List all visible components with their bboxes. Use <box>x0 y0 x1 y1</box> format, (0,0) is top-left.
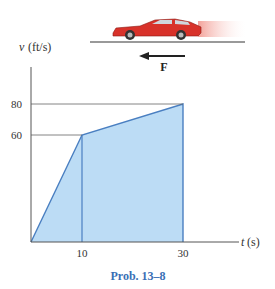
y-axis-var: v <box>19 40 25 54</box>
force-arrow-icon <box>139 52 185 60</box>
diagram-canvas: F v (ft/s) 80 60 10 30 t (s) Prob. 13–8 <box>0 0 275 289</box>
y-axis-unit: (ft/s) <box>28 40 51 54</box>
force-label: F <box>160 60 167 74</box>
figure: F v (ft/s) 80 60 10 30 t (s) Prob. 13–8 <box>0 0 275 289</box>
x-axis-var: t <box>241 235 245 249</box>
y-tick-60: 60 <box>11 129 23 141</box>
motion-blur <box>198 21 248 37</box>
caption: Prob. 13–8 <box>110 269 165 283</box>
car-illustration <box>90 19 248 42</box>
x-tick-30: 30 <box>178 247 190 259</box>
x-tick-10: 10 <box>77 247 89 259</box>
velocity-area <box>31 104 183 242</box>
y-tick-80: 80 <box>11 98 23 110</box>
x-axis-unit: (s) <box>247 235 260 249</box>
